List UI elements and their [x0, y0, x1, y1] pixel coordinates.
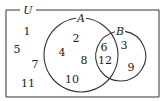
set-a-label: A — [76, 12, 85, 25]
element-outside: 11 — [21, 77, 35, 90]
element-a-only: 2 — [73, 32, 80, 45]
universe-label: U — [23, 4, 33, 17]
element-outside: 7 — [32, 58, 39, 71]
element-outside: 1 — [24, 25, 31, 38]
set-b-label: B — [115, 25, 124, 38]
element-outside: 5 — [14, 43, 21, 56]
element-b-only: 9 — [128, 61, 135, 74]
element-a-only: 10 — [65, 73, 79, 86]
element-a-and-b: 6 — [101, 41, 108, 54]
element-b-only: 3 — [121, 39, 128, 52]
element-a-only: 4 — [59, 46, 66, 59]
element-a-only: 8 — [81, 54, 88, 67]
element-a-and-b: 12 — [98, 54, 112, 67]
venn-diagram: U A B 1 5 7 11 2 4 8 10 6 12 3 9 — [0, 0, 162, 101]
